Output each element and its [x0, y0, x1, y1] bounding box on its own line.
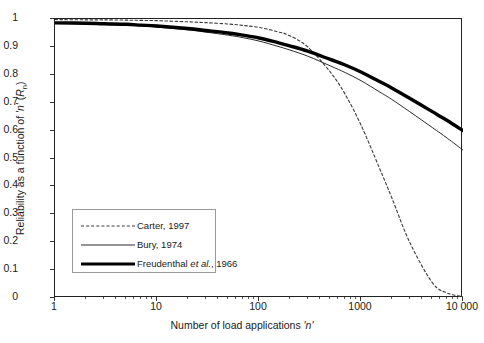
- y-tick-label: 0: [0, 291, 18, 301]
- y-tick-label: 0.5: [0, 152, 18, 162]
- legend-label-freudenthal-post: , 1966: [211, 258, 237, 269]
- x-tick-label: 10 000: [427, 300, 484, 312]
- y-tick-label: 0.9: [0, 40, 18, 50]
- legend-item-freudenthal: Freudenthal et al., 1966: [79, 254, 215, 273]
- x-axis-label: Number of load applications 'n': [0, 319, 484, 331]
- legend-label-freudenthal-italic: et al.: [190, 258, 211, 269]
- legend-label-freudenthal-pre: Freudenthal: [137, 258, 190, 269]
- y-tick-label: 0.3: [0, 207, 18, 217]
- y-tick-label: 0.4: [0, 179, 18, 189]
- y-axis-label-subscript: n: [20, 84, 29, 88]
- x-tick-label: 1000: [325, 300, 395, 312]
- legend-label-carter: Carter, 1997: [137, 220, 189, 231]
- x-tick-label: 100: [223, 300, 293, 312]
- y-tick-label: 0.7: [0, 96, 18, 106]
- legend-label-bury: Bury, 1974: [137, 239, 182, 250]
- y-tick-label: 0.2: [0, 235, 18, 245]
- legend-swatch-dashed: [79, 221, 137, 231]
- y-tick-label: 0.6: [0, 124, 18, 134]
- x-axis-label-italic-n: 'n': [304, 319, 314, 331]
- series-line: [55, 23, 463, 150]
- legend-swatch-thick-solid: [79, 259, 137, 269]
- y-tick-label: 1: [0, 12, 18, 22]
- x-tick-label: 10: [121, 300, 191, 312]
- chart-figure: Reliability as a function of 'n' (Rn) 00…: [0, 0, 484, 343]
- legend-box: Carter, 1997 Bury, 1974 Freudenthal et a…: [72, 209, 216, 273]
- x-axis-label-text: Number of load applications: [171, 319, 304, 331]
- legend-item-bury: Bury, 1974: [79, 235, 215, 254]
- y-axis-label-end: ): [14, 81, 26, 85]
- x-tick-label: 1: [19, 300, 89, 312]
- series-line: [55, 23, 463, 131]
- legend-label-freudenthal: Freudenthal et al., 1966: [137, 258, 237, 269]
- y-tick-label: 0.8: [0, 68, 18, 78]
- y-tick-label: 0.1: [0, 263, 18, 273]
- legend-item-carter: Carter, 1997: [79, 216, 215, 235]
- legend-swatch-thin-solid: [79, 240, 137, 250]
